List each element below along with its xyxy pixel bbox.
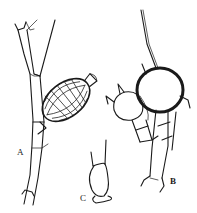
label-a: A	[17, 147, 24, 157]
specimen-c: C	[80, 140, 112, 203]
specimen-a: A	[15, 20, 106, 205]
figure-illustration: A B C	[0, 0, 197, 213]
label-c: C	[80, 193, 86, 203]
specimen-b: B	[106, 10, 190, 192]
label-b: B	[170, 176, 176, 186]
